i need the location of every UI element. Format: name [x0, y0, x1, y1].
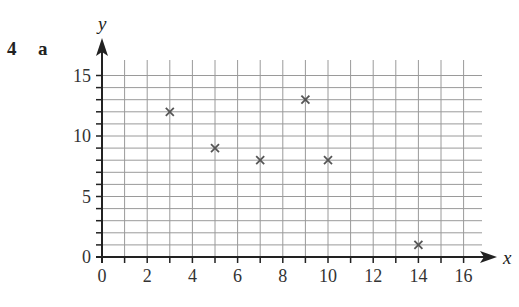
x-tick-label: 0	[98, 266, 107, 286]
y-tick-label: 15	[73, 66, 91, 86]
x-tick-label: 14	[409, 266, 427, 286]
y-tick-label: 5	[82, 187, 91, 207]
x-tick-label: 16	[455, 266, 473, 286]
y-axis-label: y	[96, 13, 107, 34]
x-tick-label: 8	[278, 266, 287, 286]
x-tick-label: 10	[319, 266, 337, 286]
x-tick-label: 6	[233, 266, 242, 286]
y-tick-label: 10	[73, 126, 91, 146]
scatter-chart: 0246810121416051015xy	[0, 0, 519, 307]
x-tick-label: 4	[188, 266, 197, 286]
x-tick-label: 12	[364, 266, 382, 286]
x-tick-label: 2	[143, 266, 152, 286]
x-axis-label: x	[502, 247, 512, 268]
y-tick-label: 0	[82, 247, 91, 267]
